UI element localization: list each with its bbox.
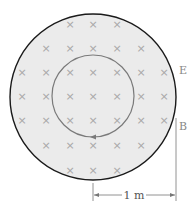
field-x-mark-icon: × [88, 139, 97, 152]
field-x-mark-icon: × [112, 42, 121, 55]
field-x-mark-icon: × [41, 90, 50, 103]
field-x-mark-icon: × [65, 66, 74, 79]
field-x-mark-icon: × [112, 164, 121, 177]
field-x-mark-icon: × [17, 114, 26, 127]
label-B: B [179, 120, 187, 133]
dimension-label: 1 m [124, 189, 145, 202]
field-x-mark-icon: × [112, 18, 121, 31]
field-x-mark-icon: × [88, 90, 97, 103]
field-x-mark-icon: × [112, 66, 121, 79]
field-x-mark-icon: × [41, 66, 50, 79]
field-x-mark-icon: × [88, 18, 97, 31]
field-x-mark-icon: × [136, 90, 145, 103]
field-x-mark-icon: × [65, 114, 74, 127]
field-x-mark-icon: × [88, 114, 97, 127]
field-x-mark-icon: × [112, 139, 121, 152]
field-x-mark-icon: × [136, 114, 145, 127]
field-x-mark-icon: × [88, 42, 97, 55]
dimension-arrow-left-icon [94, 193, 99, 197]
field-x-mark-icon: × [17, 66, 26, 79]
field-x-mark-icon: × [41, 114, 50, 127]
field-x-mark-icon: × [41, 139, 50, 152]
field-x-mark-icon: × [65, 90, 74, 103]
field-x-mark-icon: × [17, 90, 26, 103]
field-x-mark-icon: × [65, 18, 74, 31]
field-x-mark-icon: × [112, 90, 121, 103]
field-x-mark-icon: × [65, 164, 74, 177]
field-x-mark-icon: × [65, 42, 74, 55]
label-E: E [179, 64, 187, 77]
field-x-mark-icon: × [88, 66, 97, 79]
field-x-mark-icon: × [136, 66, 145, 79]
field-x-mark-icon: × [41, 42, 50, 55]
field-x-mark-icon: × [159, 66, 168, 79]
field-x-mark-icon: × [136, 139, 145, 152]
field-diagram: ××××××××××××××××××××××××××××××××××××× E … [0, 0, 194, 209]
field-x-mark-icon: × [65, 139, 74, 152]
field-x-mark-icon: × [136, 42, 145, 55]
field-x-mark-icon: × [159, 114, 168, 127]
dimension-arrow-right-icon [170, 193, 175, 197]
field-x-mark-icon: × [159, 90, 168, 103]
field-x-mark-icon: × [112, 114, 121, 127]
field-x-mark-icon: × [88, 164, 97, 177]
